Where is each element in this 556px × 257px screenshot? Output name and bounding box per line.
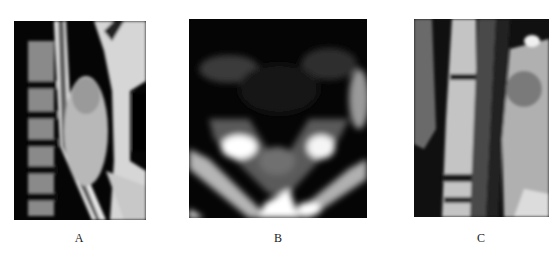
panel-label-a: A	[64, 231, 94, 246]
sagittal-mri-image-a	[14, 21, 146, 220]
sagittal-mri-image-c	[414, 19, 549, 217]
panel-label-b: B	[263, 231, 293, 246]
mri-panel-b	[189, 19, 367, 218]
panel-label-c: C	[466, 231, 496, 246]
mri-panel-a	[14, 21, 146, 220]
mri-panel-c	[414, 19, 549, 217]
axial-mri-image-b	[189, 19, 367, 218]
